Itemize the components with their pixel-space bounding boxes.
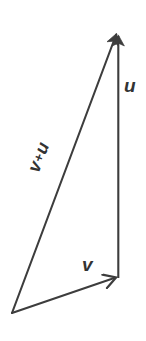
vector-v-line [12, 278, 115, 313]
vector-canvas [0, 0, 146, 341]
vector-label-v: v [82, 255, 93, 274]
vector-v-plus-u-line [12, 35, 116, 314]
vector-label-u: u [124, 76, 136, 95]
vector-diagram-figure: u v v+u [0, 0, 146, 341]
vector-v-plus-u [12, 35, 116, 314]
vector-v [12, 278, 115, 313]
